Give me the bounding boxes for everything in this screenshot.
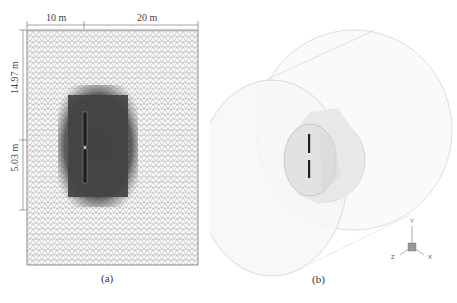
blade-3d-lower (308, 160, 310, 178)
caption-b: (b) (312, 273, 325, 285)
dim-label-14-97m: 14.97 m (9, 58, 20, 98)
blade-3d-upper (308, 134, 310, 153)
blade-lower (83, 149, 87, 183)
cylinder-domain-diagram (210, 0, 457, 303)
axis-label-z: Z (391, 254, 395, 260)
caption-a: (a) (101, 272, 113, 284)
axis-label-x: X (428, 254, 432, 260)
dim-label-5-03m: 5.03 m (9, 138, 20, 178)
blade-upper (83, 112, 87, 146)
dim-label-10m: 10 m (46, 12, 66, 23)
rotor-hub (84, 146, 86, 148)
axis-triad (400, 226, 424, 255)
panel-b: Y Z X (b) (210, 0, 457, 303)
mesh-diagram (0, 0, 210, 303)
panel-a: 10 m 20 m 14.97 m 5.03 m (a) (0, 0, 210, 303)
axis-label-y: Y (410, 218, 414, 224)
dim-label-20m: 20 m (137, 12, 157, 23)
